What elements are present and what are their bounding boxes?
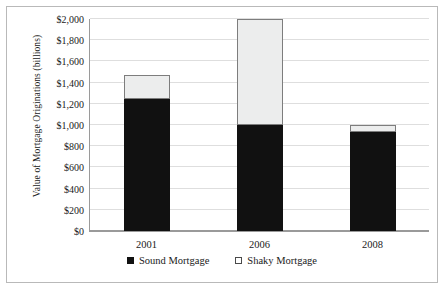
plot-area: $2,000$1,800$1,600$1,400$1,200$1,000$800… <box>89 19 429 232</box>
legend-item-shaky-mortgage[interactable]: Shaky Mortgage <box>235 255 317 266</box>
bar-segment-shaky-mortgage[interactable] <box>124 75 170 98</box>
legend-swatch-open-square-icon <box>235 257 242 264</box>
bar-segment-sound-mortgage[interactable] <box>350 132 396 231</box>
y-axis-tick-label: $1,800 <box>57 35 85 46</box>
bar-segment-shaky-mortgage[interactable] <box>237 19 283 125</box>
bar-segment-sound-mortgage[interactable] <box>237 125 283 231</box>
y-axis-tick-label: $2,000 <box>57 14 85 25</box>
bar-segment-shaky-mortgage[interactable] <box>350 125 396 132</box>
chart-legend: Sound Mortgage Shaky Mortgage <box>7 255 437 266</box>
y-axis-tick-label: $400 <box>64 183 84 194</box>
legend-swatch-filled-square-icon <box>127 257 134 264</box>
legend-item-sound-mortgage[interactable]: Sound Mortgage <box>127 255 209 266</box>
chart-figure: Value of Mortgage Originations (billions… <box>6 6 438 283</box>
y-axis-tick-label: $600 <box>64 162 84 173</box>
y-axis-title: Value of Mortgage Originations (billions… <box>32 26 42 206</box>
y-axis-tick-label: $1,400 <box>57 77 85 88</box>
y-axis-tick-label: $1,200 <box>57 98 85 109</box>
y-axis-tick-label: $1,000 <box>57 120 85 131</box>
legend-label-shaky-mortgage: Shaky Mortgage <box>247 255 317 266</box>
y-axis-tick-label: $800 <box>64 141 84 152</box>
legend-label-sound-mortgage: Sound Mortgage <box>139 255 209 266</box>
bar-segment-sound-mortgage[interactable] <box>124 99 170 232</box>
y-axis-tick-label: $200 <box>64 204 84 215</box>
x-axis-tick-label: 2001 <box>124 239 170 250</box>
y-axis-tick-label: $0 <box>74 226 84 237</box>
x-axis-tick-label: 2008 <box>350 239 396 250</box>
y-axis-tick-label: $1,600 <box>57 56 85 67</box>
x-axis-tick-label: 2006 <box>237 239 283 250</box>
